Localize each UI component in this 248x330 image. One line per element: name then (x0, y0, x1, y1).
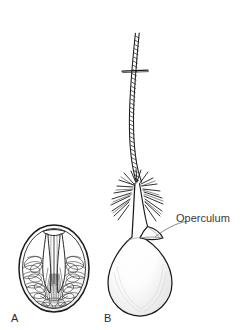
panel-b-filament (122, 33, 148, 182)
panel-label-a: A (11, 313, 19, 324)
operculum-label: Operculum (176, 213, 230, 224)
illustration-canvas (0, 0, 248, 330)
operculum-flap (126, 227, 163, 242)
filament-cross-bar (122, 70, 148, 72)
egg-b-outline (108, 183, 172, 316)
panel-label-b: B (104, 313, 112, 324)
panel-a-egg (19, 225, 89, 312)
figure-root: A B Operculum (0, 0, 248, 330)
